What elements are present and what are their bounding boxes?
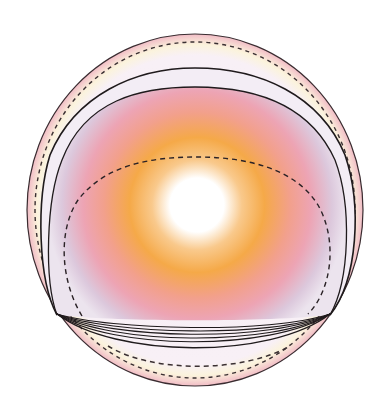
shell-diagram bbox=[0, 0, 382, 416]
diagram-canvas bbox=[0, 0, 382, 416]
